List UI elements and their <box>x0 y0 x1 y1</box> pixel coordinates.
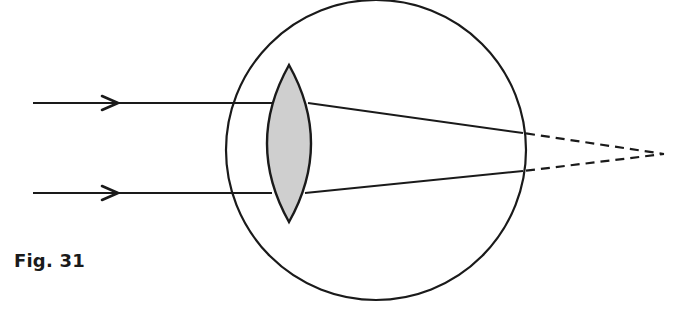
ray-upper-refracted <box>308 103 523 133</box>
ray-upper-extension-dashed <box>526 133 664 154</box>
eye-diagram <box>0 0 681 312</box>
ray-lower-refracted <box>305 171 523 193</box>
ray-upper <box>33 96 664 154</box>
figure-caption: Fig. 31 <box>14 250 85 271</box>
ray-lower <box>33 154 664 200</box>
eye-lens <box>267 65 311 222</box>
ray-lower-extension-dashed <box>526 154 664 171</box>
